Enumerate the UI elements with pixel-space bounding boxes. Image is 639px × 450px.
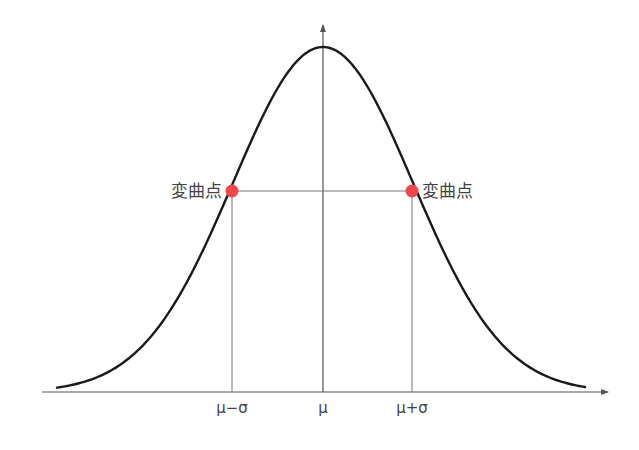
normal-distribution-diagram xyxy=(0,0,639,450)
inflection-point-left xyxy=(226,185,239,198)
tick-label-mu-minus-sigma: μ−σ xyxy=(216,399,248,417)
inflection-point-right xyxy=(406,185,419,198)
inflection-label-left: 変曲点 xyxy=(171,177,222,202)
inflection-label-right: 変曲点 xyxy=(422,177,473,202)
tick-label-mu: μ xyxy=(318,399,328,417)
normal-curve xyxy=(57,47,585,388)
tick-label-mu-plus-sigma: μ+σ xyxy=(396,399,428,417)
